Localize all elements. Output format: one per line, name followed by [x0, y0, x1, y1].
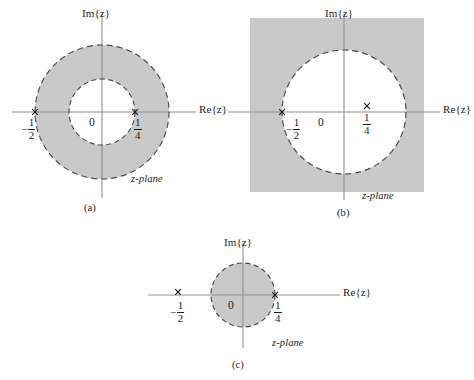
panel-b-pole-left-sign: − [286, 124, 292, 135]
figure-root: Im{z} Re{z} 0 − 1 2 1 4 z-plane (a) Im{z… [0, 0, 474, 380]
panel-a [12, 14, 196, 198]
panel-a-plane-label: z-plane [131, 174, 163, 185]
panel-b-pole-right-numerator: 1 [363, 112, 371, 124]
panel-b-pole-left-label: − 1 2 [286, 117, 300, 141]
panel-b-origin-label: 0 [318, 117, 324, 129]
panel-a-pole-right-numerator: 1 [134, 117, 142, 129]
panel-a-pole-left-label: − 1 2 [21, 117, 35, 141]
panel-c-pole-right-numerator: 1 [274, 300, 282, 312]
panel-a-pole-right-label: 1 4 [134, 117, 142, 141]
panel-c-re-axis-label: Re{z} [343, 287, 371, 298]
panel-a-im-axis-label: Im{z} [82, 8, 110, 19]
panel-b-pole-right-denominator: 4 [363, 125, 371, 137]
panel-c [148, 243, 340, 348]
panel-a-pole-left-denominator: 2 [28, 130, 36, 142]
panel-a-caption: (a) [84, 203, 96, 214]
panel-c-pole-left-sign: − [170, 307, 176, 318]
panel-b-pole-left-denominator: 2 [293, 130, 301, 142]
panel-b-re-axis-label: Re{z} [443, 104, 471, 115]
figure-canvas [0, 0, 474, 380]
panel-b-shaded-region [250, 18, 424, 192]
panel-c-pole-right-denominator: 4 [274, 313, 282, 325]
panel-b-caption: (b) [337, 208, 350, 219]
panel-c-im-axis-label: Im{z} [224, 237, 252, 248]
panel-c-pole-left-denominator: 2 [177, 313, 185, 325]
panel-b-pole-left-numerator: 1 [293, 117, 301, 129]
panel-c-origin-label: 0 [228, 300, 234, 312]
panel-b-im-axis-label: Im{z} [325, 8, 353, 19]
panel-a-pole-left-numerator: 1 [28, 117, 36, 129]
panel-a-origin-label: 0 [89, 117, 95, 129]
panel-c-pole-marker-left [175, 289, 181, 295]
panel-b [228, 14, 440, 200]
panel-a-pole-left-sign: − [21, 124, 27, 135]
panel-a-pole-right-denominator: 4 [134, 130, 142, 142]
panel-c-plane-label: z-plane [272, 338, 304, 349]
panel-c-pole-left-numerator: 1 [177, 300, 185, 312]
panel-c-caption: (c) [232, 360, 244, 371]
panel-b-pole-right-label: 1 4 [363, 112, 371, 136]
panel-b-plane-label: z-plane [362, 191, 394, 202]
panel-a-re-axis-label: Re{z} [199, 104, 227, 115]
panel-c-pole-left-label: − 1 2 [170, 300, 184, 324]
panel-c-pole-right-label: 1 4 [274, 300, 282, 324]
